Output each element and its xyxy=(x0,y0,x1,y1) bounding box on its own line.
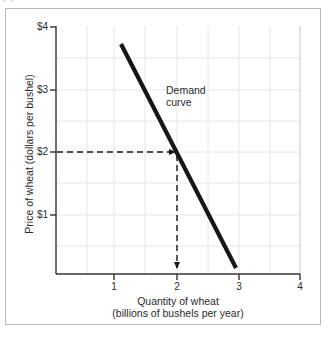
x-axis-ticks xyxy=(114,274,300,280)
x-axis-title-line1: Quantity of wheat xyxy=(56,295,300,307)
grid-vertical xyxy=(87,26,270,274)
x-axis-title: Quantity of wheat (billions of bushels p… xyxy=(56,295,300,319)
demand-curve-line xyxy=(121,44,236,268)
x-tick-label-2: 2 xyxy=(167,282,187,292)
x-tick-label-4: 4 xyxy=(290,282,310,292)
demand-curve-chart: $4 $3 $2 $1 1 2 3 4 Price of wheat (doll… xyxy=(0,0,329,340)
y-axis-ticks xyxy=(50,27,56,215)
demand-curve-label: Demand curve xyxy=(166,84,206,108)
demand-curve-label-line2: curve xyxy=(166,96,206,108)
x-tick-label-1: 1 xyxy=(104,282,124,292)
x-tick-label-3: 3 xyxy=(229,282,249,292)
y-axis-title: Price of wheat (dollars per bushel) xyxy=(23,49,35,259)
chart-canvas xyxy=(0,0,329,340)
x-axis-title-line2: (billions of bushels per year) xyxy=(56,307,300,319)
y-tick-label-4: $4 xyxy=(22,22,48,32)
demand-curve-label-line1: Demand xyxy=(166,84,206,96)
